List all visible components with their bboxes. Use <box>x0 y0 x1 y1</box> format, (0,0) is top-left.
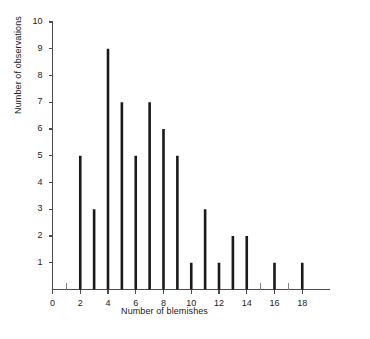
bar <box>93 209 96 289</box>
x-axis-tick-label: 2 <box>70 299 90 308</box>
y-axis-tick-label: 10 <box>21 17 43 26</box>
bar <box>204 209 207 289</box>
y-axis-tick-label: 7 <box>21 97 43 106</box>
bar <box>107 49 110 290</box>
chart-figure: Number of observations Number of blemish… <box>0 0 370 339</box>
bar <box>232 236 235 290</box>
bar <box>162 129 165 290</box>
bar <box>121 102 124 289</box>
bar <box>190 263 193 290</box>
bar <box>218 263 221 290</box>
bar <box>245 236 248 290</box>
x-axis-tick-label: 14 <box>237 299 257 308</box>
bar <box>134 156 137 290</box>
bar <box>176 156 179 290</box>
y-axis-tick-label: 6 <box>21 124 43 133</box>
x-axis-tick-label: 8 <box>154 299 174 308</box>
x-axis-tick-label: 18 <box>292 299 312 308</box>
plot-area <box>0 0 370 339</box>
x-axis-tick-label: 6 <box>126 299 146 308</box>
y-axis-tick-label: 1 <box>21 258 43 267</box>
y-axis-tick-label: 4 <box>21 178 43 187</box>
x-axis-tick-label: 4 <box>98 299 118 308</box>
y-axis-tick-label: 2 <box>21 231 43 240</box>
bar <box>301 263 304 290</box>
x-axis-tick-label: 16 <box>265 299 285 308</box>
bar <box>148 102 151 289</box>
x-axis-tick-label: 0 <box>43 299 63 308</box>
y-axis-tick-label: 8 <box>21 71 43 80</box>
y-axis-tick-label: 3 <box>21 204 43 213</box>
bar <box>79 156 82 290</box>
x-axis-tick-label: 10 <box>181 299 201 308</box>
x-axis-tick-label: 12 <box>209 299 229 308</box>
bar <box>273 263 276 290</box>
y-axis-tick-label: 9 <box>21 44 43 53</box>
y-axis-tick-label: 5 <box>21 151 43 160</box>
